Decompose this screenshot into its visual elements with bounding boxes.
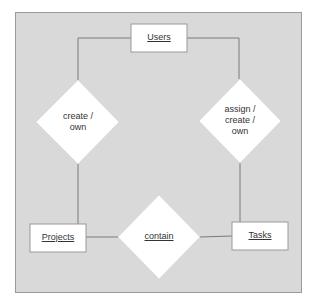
relationship-contain-label: contain — [129, 231, 189, 242]
line-users-assign — [187, 38, 239, 79]
er-diagram-shapes — [0, 0, 315, 307]
entity-tasks-label: Tasks — [232, 230, 288, 241]
entity-projects-label: Projects — [30, 232, 86, 243]
relationship-create-own-label: create / own — [48, 111, 108, 133]
line-users-createown — [78, 38, 131, 80]
line-contain-tasks — [200, 236, 232, 237]
entity-users-label: Users — [131, 32, 187, 43]
relationship-assign-label: assign / create / own — [210, 104, 270, 137]
